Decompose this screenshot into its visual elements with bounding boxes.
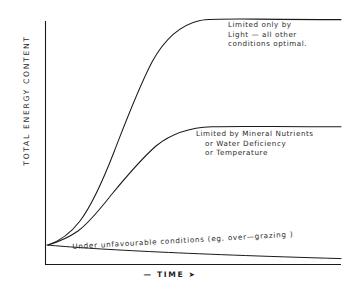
x-axis-label: — TIME ➤ xyxy=(118,270,222,279)
annotation-light-line-2: Light — all other xyxy=(228,30,307,40)
annotation-limited-by-light: Limited only by Light — all other condit… xyxy=(228,20,307,49)
annotation-light-line-1: Limited only by xyxy=(228,20,307,30)
y-axis-label: TOTAL ENERGY CONTENT xyxy=(22,31,31,171)
annotation-nutrients-line-3: or Temperature xyxy=(196,148,314,158)
annotation-limited-by-nutrients: Limited by Mineral Nutrients or Water De… xyxy=(196,129,314,158)
annotation-light-line-3: conditions optimal. xyxy=(228,39,307,49)
annotation-nutrients-line-1: Limited by Mineral Nutrients xyxy=(196,129,314,139)
annotation-nutrients-line-2: or Water Deficiency xyxy=(196,139,314,149)
chart-figure: GROWTH IN RELATION TO ENVIRONMENT Limite… xyxy=(0,0,347,295)
